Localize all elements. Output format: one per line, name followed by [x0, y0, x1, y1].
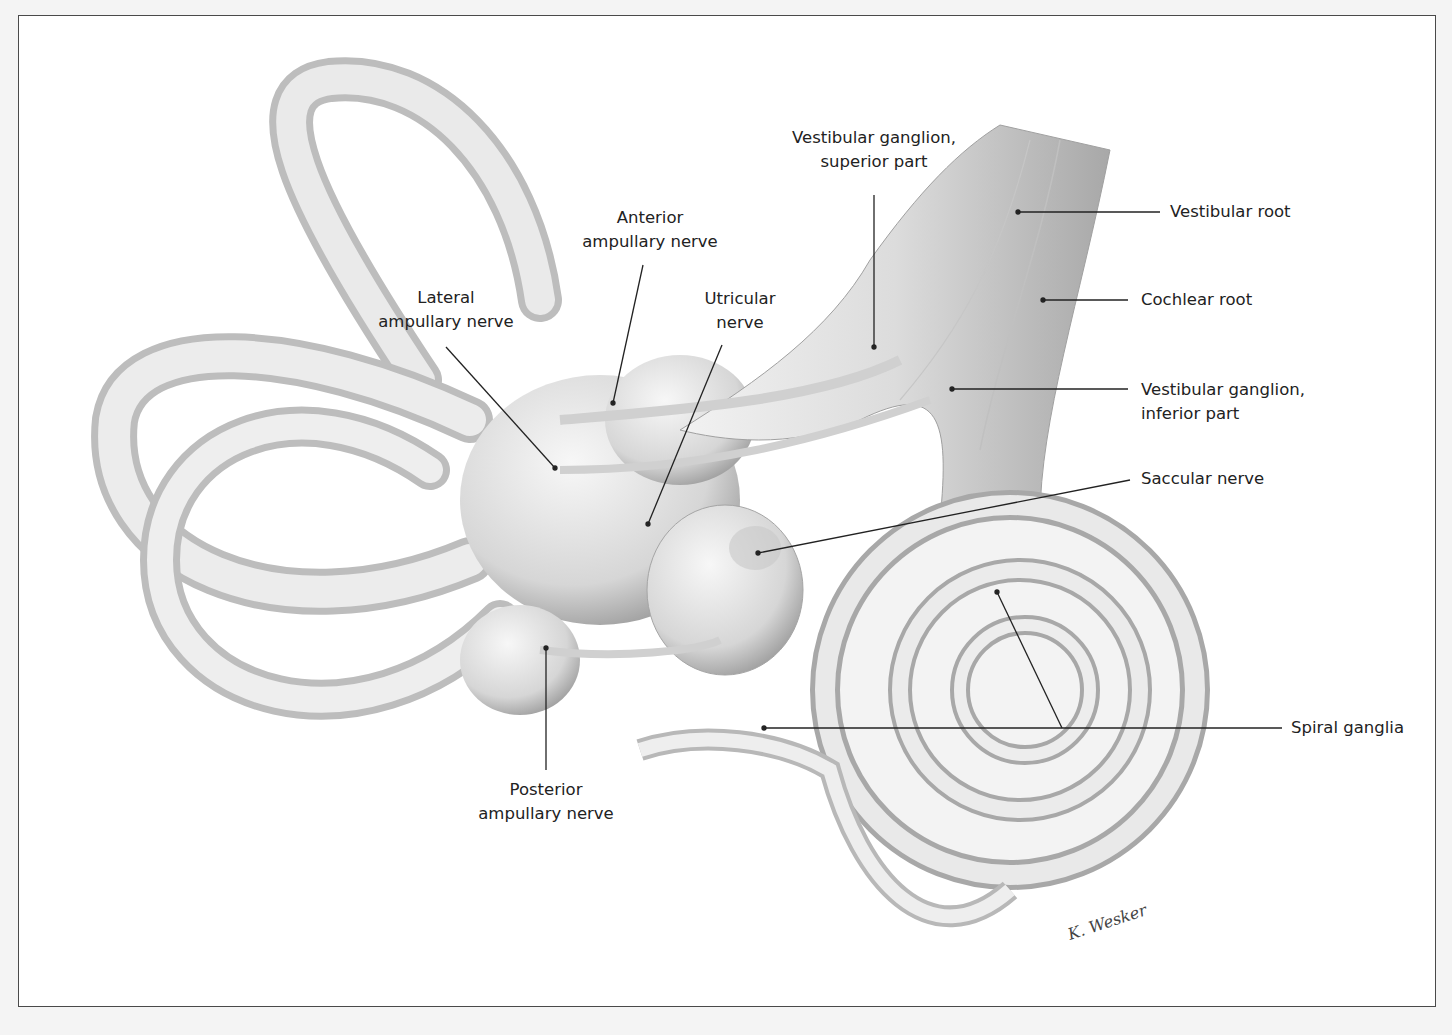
label-line: ampullary nerve [478, 802, 614, 826]
label-line: superior part [792, 150, 956, 174]
semicircular-canals [114, 79, 540, 699]
label-vestibular-ganglion-superior: Vestibular ganglion, superior part [792, 126, 956, 174]
inner-ear-illustration: K. Wesker [0, 0, 1452, 1035]
label-line: nerve [705, 311, 776, 335]
label-posterior-ampullary-nerve: Posterior ampullary nerve [478, 778, 614, 826]
label-anterior-ampullary-nerve: Anterior ampullary nerve [582, 206, 718, 254]
ampulla-posterior [460, 605, 580, 715]
artist-signature: K. Wesker [1064, 900, 1150, 944]
label-cochlear-root: Cochlear root [1141, 288, 1252, 312]
label-saccular-nerve: Saccular nerve [1141, 467, 1264, 491]
label-lateral-ampullary-nerve: Lateral ampullary nerve [378, 286, 514, 334]
label-line: Posterior [478, 778, 614, 802]
label-vestibular-root: Vestibular root [1170, 200, 1291, 224]
label-line: ampullary nerve [582, 230, 718, 254]
label-vestibular-ganglion-inferior: Vestibular ganglion, inferior part [1141, 378, 1305, 426]
figure-caption-cutoff [22, 1015, 1432, 1035]
label-line: Utricular [705, 287, 776, 311]
label-line: Lateral [378, 286, 514, 310]
label-spiral-ganglia: Spiral ganglia [1291, 716, 1404, 740]
label-line: Anterior [582, 206, 718, 230]
label-line: inferior part [1141, 402, 1305, 426]
label-line: Vestibular ganglion, [792, 126, 956, 150]
label-line: Vestibular ganglion, [1141, 378, 1305, 402]
label-line: ampullary nerve [378, 310, 514, 334]
label-utricular-nerve: Utricular nerve [705, 287, 776, 335]
